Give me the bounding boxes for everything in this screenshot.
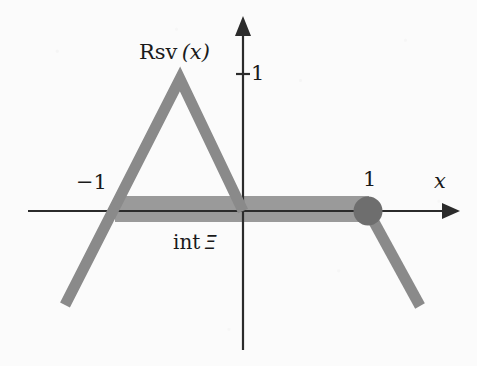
endpoint-dot-marker [354,197,383,226]
curve-label-rsv: Rsv (x) [139,42,210,63]
plot-svg [0,0,477,366]
x-tick-label-positive-1: 1 [363,169,376,190]
y-axis-arrowhead [235,16,251,36]
x-axis-label: x [434,171,446,192]
x-tick-label-negative-1: −1 [76,172,107,193]
figure-canvas: Rsv (x) 1 −1 1 x intΞ [0,0,477,366]
interval-label-int-xi: intΞ [173,232,217,252]
y-tick-label-1: 1 [251,63,264,84]
x-axis-arrowhead [442,203,460,219]
y-axis [235,16,251,350]
interval-label-prefix: int [173,230,200,254]
curve-rsv-right-branch [368,211,420,306]
xi-symbol: Ξ [200,230,217,254]
curve-label-rsv-argument: (x) [182,40,210,64]
curve-label-rsv-prefix: Rsv [139,40,182,64]
